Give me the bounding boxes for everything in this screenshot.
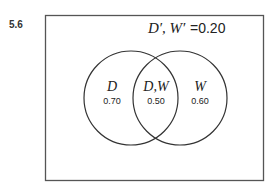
- region-d-label: D: [106, 79, 117, 94]
- region-dw-value: 0.50: [147, 96, 165, 106]
- region-w-value: 0.60: [191, 96, 209, 106]
- venn-diagram: D′, W′ =0.20 D 0.70 D,W 0.50 W 0.60: [0, 0, 276, 187]
- complement-value: =0.20: [190, 20, 226, 36]
- region-w-label: W: [194, 79, 207, 94]
- complement-sets-label: D′, W′: [147, 20, 186, 36]
- region-d-value: 0.70: [103, 96, 121, 106]
- region-dw-label: D,W: [142, 79, 170, 94]
